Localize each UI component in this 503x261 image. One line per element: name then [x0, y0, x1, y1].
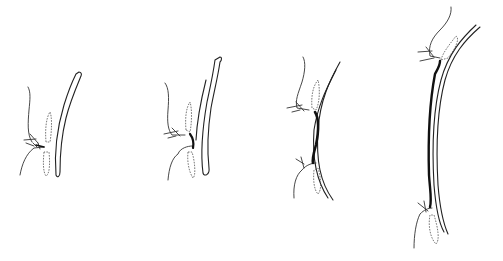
rod-outer	[437, 27, 480, 234]
upper-tissue	[429, 7, 451, 58]
lower-pad	[43, 152, 49, 176]
lower-tissue	[20, 147, 44, 175]
rod-outer	[318, 62, 340, 200]
upper-tissue	[296, 57, 309, 110]
lower-tissue	[168, 146, 192, 180]
rod-bone	[55, 72, 81, 177]
panel-3	[287, 57, 340, 200]
panel-1	[20, 72, 81, 177]
upper-pad	[46, 112, 52, 142]
lower-pad	[188, 152, 195, 178]
rod-bone	[202, 57, 222, 175]
upper-pad	[312, 80, 320, 110]
panel-4	[414, 7, 480, 248]
lower-tissue	[294, 163, 316, 198]
upper-pad	[186, 102, 192, 132]
rod-inner	[196, 80, 206, 140]
panel-2	[164, 57, 222, 180]
anatomical-sequence-figure	[0, 0, 503, 261]
lower-pad	[429, 215, 438, 244]
upper-tissue	[165, 83, 185, 135]
suture-lines	[287, 102, 304, 168]
suture-lines	[418, 47, 434, 212]
suture-lines	[164, 128, 180, 138]
lower-tissue	[414, 208, 432, 248]
